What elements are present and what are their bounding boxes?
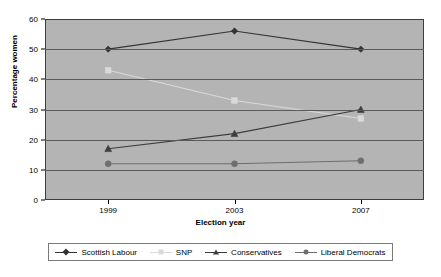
legend-swatch <box>55 248 77 257</box>
y-axis-title: Percentage women <box>10 12 19 132</box>
legend-swatch <box>150 248 172 257</box>
y-tick-label: 20 <box>29 135 38 144</box>
data-point-marker <box>231 28 237 34</box>
y-tick-label: 0 <box>34 196 38 205</box>
x-tick-label: 1999 <box>99 206 117 215</box>
x-tick-mark <box>235 200 236 204</box>
plot-area <box>45 19 424 200</box>
legend-entry[interactable]: Liberal Democrats <box>295 248 386 257</box>
gridline <box>45 49 424 50</box>
gridline <box>45 110 424 111</box>
legend-marker-diamond-icon <box>63 248 70 255</box>
legend-swatch <box>205 248 227 257</box>
x-tick-label: 2003 <box>226 206 244 215</box>
legend-marker-triangle-icon <box>213 250 219 255</box>
legend-label: Liberal Democrats <box>321 248 386 257</box>
data-point-marker <box>232 98 238 104</box>
chart-screenshot: 0102030405060 Percentage women Election … <box>0 0 441 277</box>
legend-label: Scottish Labour <box>81 248 137 257</box>
legend-swatch <box>295 248 317 257</box>
x-tick-label: 2007 <box>352 206 370 215</box>
x-axis-title: Election year <box>0 218 441 227</box>
legend-marker-square-icon <box>158 250 163 255</box>
data-point-marker <box>358 116 364 122</box>
legend-label: Conservatives <box>231 248 282 257</box>
gridline <box>45 170 424 171</box>
gridline <box>45 140 424 141</box>
data-point-marker <box>358 158 364 164</box>
y-tick-label: 40 <box>29 75 38 84</box>
data-point-marker <box>105 161 111 167</box>
series-line <box>108 110 361 149</box>
y-tick-label: 30 <box>29 105 38 114</box>
data-point-marker <box>232 161 238 167</box>
x-tick-mark <box>108 200 109 204</box>
legend-label: SNP <box>176 248 192 257</box>
legend-entry[interactable]: Scottish Labour <box>55 248 137 257</box>
y-tick-label: 10 <box>29 165 38 174</box>
y-tick-label: 60 <box>29 15 38 24</box>
y-tick-label: 50 <box>29 45 38 54</box>
data-point-marker <box>105 67 111 73</box>
legend-marker-circle-icon <box>303 250 308 255</box>
series-line <box>108 70 361 118</box>
y-axis: 0102030405060 <box>0 19 45 200</box>
legend-entry[interactable]: Conservatives <box>205 248 282 257</box>
gridline <box>45 79 424 80</box>
chart-legend: Scottish LabourSNPConservativesLiberal D… <box>48 243 393 261</box>
legend-entry[interactable]: SNP <box>150 248 192 257</box>
x-tick-mark <box>361 200 362 204</box>
